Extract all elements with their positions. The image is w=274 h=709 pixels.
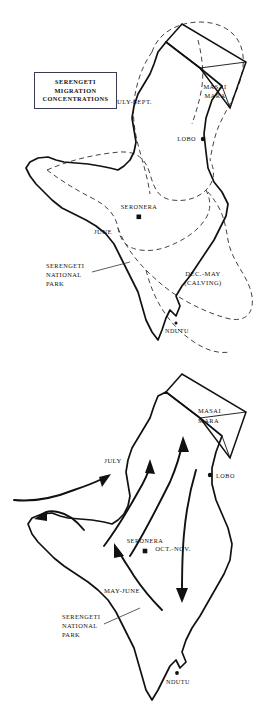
label-masai-mara-movements-line2: MARA: [198, 417, 219, 424]
label-park-line1: SERENGETI: [46, 262, 84, 269]
label-park-movements-line2: NATIONAL: [62, 622, 98, 629]
label-park-movements-line1: SERENGETI: [62, 613, 100, 620]
label-lobo: LOBO: [177, 135, 196, 142]
seronera-marker-movements: [143, 549, 148, 554]
label-oct-nov: OCT.-NOV.: [155, 545, 191, 552]
label-seronera-movements: SERONERA: [127, 537, 164, 544]
label-may-june: MAY-JUNE: [104, 587, 140, 594]
ndutu-marker-movements: [175, 671, 179, 675]
concentration-boundary-masai-inner: [192, 40, 203, 124]
label-park-movements-line3: PARK: [62, 631, 80, 638]
concentration-boundary-june-lower: [47, 170, 210, 251]
arrow-head-seronera-to-mara-west: [145, 459, 155, 474]
serengeti-park-boundary-movements: [28, 392, 232, 700]
label-masai-mara-line1: MASAI: [203, 83, 226, 90]
map-movements: JULY OCT.-NOV. MAY-JUNE MASAI MARA LOBO …: [0, 355, 274, 709]
masai-mara-reserve-boundary-movements: [166, 374, 246, 458]
arrow-head-seronera-to-mara-east: [178, 436, 189, 452]
label-july-movements: JULY: [104, 457, 121, 464]
map-concentrations: JULY-SEPT. JUNE DEC.-MAY (CALVING) MASAI…: [0, 0, 274, 355]
label-park-line2: NATIONAL: [46, 271, 82, 278]
label-masai-mara-movements-line1: MASAI: [198, 407, 221, 414]
lobo-marker-movements: [208, 473, 212, 477]
legend-box-concentrations: SERENGETI MIGRATION CONCENTRATIONS: [34, 72, 117, 109]
label-ndutu: NDUTU: [165, 327, 189, 334]
label-ndutu-movements: NDUTU: [166, 678, 190, 685]
label-seronera: SERONERA: [121, 203, 158, 210]
map-concentrations-canvas: JULY-SEPT. JUNE DEC.-MAY (CALVING) MASAI…: [0, 0, 274, 355]
arrow-head-west-upper: [99, 474, 111, 487]
ndutu-marker: [175, 322, 178, 325]
legend-concentrations-line3: CONCENTRATIONS: [35, 95, 116, 104]
arrow-head-oct-nov: [176, 588, 188, 603]
label-lobo-movements: LOBO: [216, 472, 235, 479]
lobo-marker: [201, 137, 205, 141]
label-park-line3: PARK: [46, 280, 64, 287]
masai-mara-internal-divider: [200, 62, 246, 68]
map-movements-canvas: JULY OCT.-NOV. MAY-JUNE MASAI MARA LOBO …: [0, 355, 274, 709]
masai-mara-east-edge-movements: [222, 436, 230, 458]
legend-concentrations-line1: SERENGETI: [35, 78, 116, 87]
label-dec-may: DEC.-MAY: [185, 270, 220, 277]
arrow-may-june-north: [118, 550, 162, 610]
arrow-oct-nov-south: [182, 470, 196, 594]
label-calving: (CALVING): [184, 279, 222, 287]
park-label-leader-line-movements: [104, 608, 140, 624]
label-july-sept: JULY-SEPT.: [114, 98, 152, 105]
arrow-head-may-june: [114, 543, 124, 558]
label-june: JUNE: [94, 228, 112, 235]
legend-concentrations-line2: MIGRATION: [35, 87, 116, 96]
label-masai-mara-line2: MARA: [204, 92, 225, 99]
park-label-leader-line: [92, 262, 130, 272]
arrow-west-upper: [14, 478, 104, 501]
seronera-marker: [137, 215, 142, 220]
